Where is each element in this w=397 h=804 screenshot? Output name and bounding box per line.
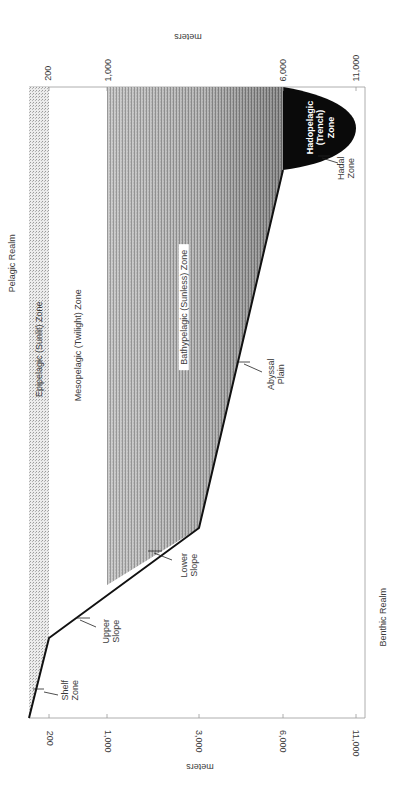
bathypelagic-zone-label: Bathypelagic (Sunless) Zone [179, 244, 189, 370]
hadopelagic-zone-label: Hadopelagic (Trench) Zone [305, 99, 336, 157]
shelf-zone-label: Shelf Zone [60, 674, 81, 706]
bottom-axis-unit-label: meters [180, 762, 220, 772]
shelf-zone-line2: Zone [70, 674, 80, 706]
shelf-zone-line1: Shelf [60, 674, 70, 706]
lower-slope-label: Lower Slope [179, 549, 200, 581]
top-tick-1000: 1,000 [103, 55, 113, 85]
upper-slope-line1: Upper [101, 615, 111, 647]
hadopelagic-line3: Zone [326, 99, 336, 157]
bottom-tick-11000: 11,000 [351, 726, 361, 760]
hadopelagic-line1: Hadopelagic [305, 99, 315, 157]
hadal-zone-line1: Hadal [336, 152, 346, 184]
mesopelagic-zone-label: Mesopelagic (Twilight) Zone [73, 282, 83, 408]
lower-slope-line1: Lower [179, 549, 189, 581]
upper-slope-line2: Slope [111, 615, 121, 647]
bathypelagic-zone-fill [107, 87, 283, 585]
top-tick-6000: 6,000 [278, 55, 288, 85]
top-axis-unit-label: meters [168, 32, 208, 42]
bottom-tick-200: 200 [45, 726, 55, 750]
benthic-realm-label: Benthic Realm [378, 586, 388, 648]
abyssal-plain-line2: Plain [276, 355, 286, 393]
upper-slope-label: Upper Slope [101, 615, 122, 647]
bottom-tick-6000: 6,000 [278, 726, 288, 756]
hadopelagic-line2: (Trench) [316, 99, 326, 157]
abyssal-plain-label: Abyssal Plain [266, 355, 287, 393]
pelagic-realm-label: Pelagic Realm [7, 232, 17, 294]
top-tick-11000: 11,000 [351, 51, 361, 85]
lower-slope-line2: Slope [189, 549, 199, 581]
hadal-zone-label: Hadal Zone [336, 152, 357, 184]
abyssal-plain-line1: Abyssal [266, 355, 276, 393]
bottom-axis-ticks [49, 714, 356, 718]
hadal-zone-line2: Zone [346, 152, 356, 184]
bottom-tick-3000: 3,000 [194, 726, 204, 756]
bottom-tick-1000: 1,000 [103, 726, 113, 756]
top-tick-200: 200 [43, 61, 53, 85]
epipelagic-zone-label: Epipelagic (Sunlit) Zone [34, 294, 44, 404]
